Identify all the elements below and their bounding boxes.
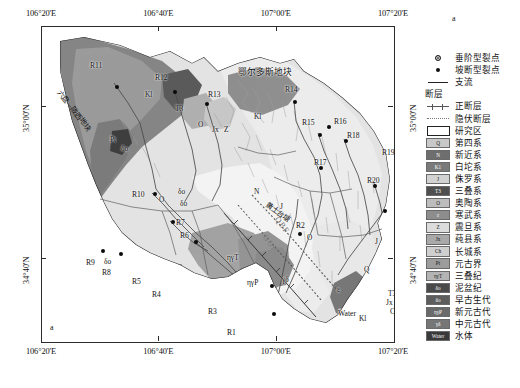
unit-label-text: 中元古代 xyxy=(455,319,491,329)
legend-label: 垂阶型裂点 xyxy=(455,53,500,63)
x-tick-label-top-2: 107°00'E xyxy=(250,9,302,18)
panel-label-bottom: a xyxy=(50,323,54,332)
unit-label-Ch-24: Ch xyxy=(390,307,395,316)
site-label-r14[interactable]: R14 xyxy=(285,85,298,94)
unit-swatch-Pt: Pt xyxy=(425,259,451,269)
unit-swatch-O: O xyxy=(425,198,451,208)
y-tick-mark xyxy=(41,258,46,259)
unit-label-Kl-21: Kl xyxy=(359,314,366,323)
y-tick-label-left-0: 35°00'N xyxy=(22,105,31,133)
x-tick-mark xyxy=(276,26,277,31)
x-tick-label-bottom-2: 107°00'E xyxy=(250,347,302,356)
legend-symbol-group: 垂阶型裂点坡断型裂点支流 xyxy=(425,52,517,88)
legend-study-area: 研究区 xyxy=(425,125,517,137)
unit-label-text: 水体 xyxy=(455,331,473,341)
unit-label-o-10: δo xyxy=(180,199,187,208)
x-tick-mark xyxy=(276,336,277,341)
x-tick-label-top-3: 107°20'E xyxy=(367,9,419,18)
legend-item-unit-6: ε寒武系 xyxy=(425,209,517,221)
unit-label-text: 新元古代 xyxy=(455,307,491,317)
legend-item-symbol-2: 支流 xyxy=(425,76,517,88)
x-tick-label-top-1: 106°40'E xyxy=(132,9,184,18)
legend-item-unit-14: ηγP新元古代 xyxy=(425,306,517,318)
unit-label-N-11: N xyxy=(254,187,259,196)
unit-label-O-2: O xyxy=(198,120,203,129)
y-tick-mark xyxy=(41,106,46,107)
unit-swatch-: ε xyxy=(425,210,451,220)
unit-swatch-Q: Q xyxy=(425,138,451,148)
legend-unit-group: Q第四系N新近系K1白坨系J侏罗系T3三叠系O奥陶系ε寒武系Z震旦系Jx蒓县系C… xyxy=(425,137,517,343)
site-label-r19[interactable]: R19 xyxy=(382,148,395,157)
site-label-r16[interactable]: R16 xyxy=(334,117,347,126)
site-label-r18[interactable]: R18 xyxy=(347,131,360,140)
legend-item-unit-5: O奥陶系 xyxy=(425,197,517,209)
y-tick-mark xyxy=(388,106,393,107)
site-label-r5[interactable]: R5 xyxy=(132,277,141,286)
water-body-label: Water xyxy=(338,309,356,318)
unit-swatch-: γδ xyxy=(425,319,451,329)
slope-fracture-dot-icon xyxy=(425,65,451,75)
legend-label: 支流 xyxy=(455,77,473,87)
unit-label-T3-1: T3 xyxy=(175,104,183,113)
normal-fault-line-icon xyxy=(425,101,451,111)
legend-item-fault-0: 正断层 xyxy=(425,100,517,112)
map-plot-area[interactable]: 鄂尔多斯地块 秦岭 六盘—陇西地块 黄土台塘 QBF GGF Water KlT… xyxy=(41,26,395,343)
site-label-r2[interactable]: R2 xyxy=(296,221,305,230)
unit-swatch-Water: Water xyxy=(425,331,451,341)
legend-fault-header: 断层 xyxy=(425,88,517,100)
site-label-r11[interactable]: R11 xyxy=(90,61,102,70)
site-label-r15[interactable]: R15 xyxy=(302,118,315,127)
legend-item-unit-13: δo早古生代 xyxy=(425,294,517,306)
unit-label-text: 蒓县系 xyxy=(455,234,482,244)
x-tick-label-bottom-3: 107°20'E xyxy=(367,347,419,356)
legend-item-symbol-1: 坡断型裂点 xyxy=(425,64,517,76)
unit-swatch-o: δo xyxy=(425,295,451,305)
unit-label-Jx-23: Jx xyxy=(386,298,393,307)
legend-item-unit-7: Z震旦系 xyxy=(425,221,517,233)
legend-label: 隐伏断层 xyxy=(455,114,491,124)
y-tick-label-right-0: 35°00'N xyxy=(409,105,418,133)
panel-label-top: a xyxy=(452,14,456,23)
unit-label-J-19: J xyxy=(375,237,378,246)
site-label-r12[interactable]: R12 xyxy=(155,73,168,82)
legend-item-unit-2: K1白坨系 xyxy=(425,161,517,173)
site-label-r13[interactable]: R13 xyxy=(208,90,221,99)
legend-label: 坡断型裂点 xyxy=(455,65,500,75)
site-label-r6[interactable]: R6 xyxy=(180,231,189,240)
unit-label-Q-17: Q xyxy=(364,265,369,274)
legend-item-unit-3: J侏罗系 xyxy=(425,173,517,185)
unit-label-text: 泥盆纪 xyxy=(455,283,482,293)
site-label-r7[interactable]: R7 xyxy=(176,218,185,227)
legend-item-unit-16: Water水体 xyxy=(425,330,517,342)
unit-label-text: 震旦系 xyxy=(455,222,482,232)
unit-label-text: 新近系 xyxy=(455,150,482,160)
unit-label-Kl-5: Kl xyxy=(254,112,261,121)
x-tick-label-bottom-1: 106°40'E xyxy=(132,347,184,356)
unit-label-text: 寒武系 xyxy=(455,210,482,220)
unit-label-o-9: δo xyxy=(178,187,185,196)
site-label-r9[interactable]: R9 xyxy=(86,258,95,267)
unit-label-text: 三叠系 xyxy=(455,186,482,196)
unit-swatch-Jx: Jx xyxy=(425,234,451,244)
site-label-r4[interactable]: R4 xyxy=(152,290,161,299)
legend-item-fault-1: 隐伏断层 xyxy=(425,112,517,124)
unit-swatch-o: δo xyxy=(425,283,451,293)
site-label-r8[interactable]: R8 xyxy=(102,268,111,277)
site-label-r3[interactable]: R3 xyxy=(208,307,217,316)
legend-item-symbol-0: 垂阶型裂点 xyxy=(425,52,517,64)
unit-label-T-13: ηγT xyxy=(227,253,239,262)
unit-label-text: 奥陶系 xyxy=(455,198,482,208)
unit-swatch-Ch: Ch xyxy=(425,247,451,257)
legend-item-unit-4: T3三叠系 xyxy=(425,185,517,197)
unit-label-Kl-0: Kl xyxy=(145,90,152,99)
site-label-r10[interactable]: R10 xyxy=(132,190,145,199)
unit-label-o-12: δo xyxy=(104,257,111,266)
legend-item-unit-0: Q第四系 xyxy=(425,137,517,149)
unit-swatch-K1: K1 xyxy=(425,162,451,172)
unit-label-Pt-6: Pt xyxy=(110,135,116,144)
legend-item-unit-1: N新近系 xyxy=(425,149,517,161)
unit-swatch-T3: T3 xyxy=(425,186,451,196)
unit-label-text: 白坨系 xyxy=(455,162,482,172)
unit-label--18: ε xyxy=(337,285,340,294)
site-label-r1[interactable]: R1 xyxy=(227,328,236,337)
